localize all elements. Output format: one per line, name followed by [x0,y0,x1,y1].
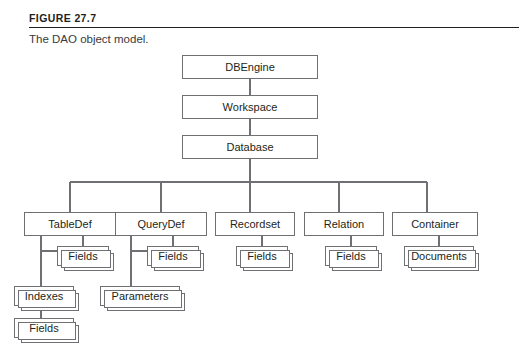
node-label: TableDef [48,218,91,230]
node-querydef[interactable]: QueryDef [115,212,207,236]
node-relation-fields[interactable]: Fields [325,246,377,266]
node-label: Database [226,141,273,153]
node-tabledef-fields[interactable]: Fields [57,246,109,266]
node-label: Container [411,218,459,230]
dao-object-model-diagram: DBEngine Workspace Database TableDef Que… [0,0,519,352]
node-tabledef[interactable]: TableDef [24,212,116,236]
node-container-documents[interactable]: Documents [404,246,474,266]
node-querydef-fields[interactable]: Fields [147,246,199,266]
node-indexes-fields[interactable]: Fields [14,318,74,338]
node-label: Fields [158,250,187,262]
node-label: Documents [411,250,467,262]
node-label: Fields [68,250,97,262]
node-label: Fields [29,322,58,334]
node-dbengine[interactable]: DBEngine [182,55,318,79]
node-label: Fields [336,250,365,262]
node-relation[interactable]: Relation [304,212,384,236]
node-label: Relation [324,218,364,230]
node-workspace[interactable]: Workspace [182,95,318,119]
node-querydef-parameters[interactable]: Parameters [100,286,180,306]
figure-page: FIGURE 27.7 The DAO object model. [0,0,519,352]
node-label: QueryDef [137,218,184,230]
node-container[interactable]: Container [392,212,478,236]
node-recordset[interactable]: Recordset [215,212,295,236]
node-label: DBEngine [225,61,275,73]
node-label: Recordset [230,218,280,230]
node-recordset-fields[interactable]: Fields [236,246,288,266]
node-label: Indexes [25,290,64,302]
node-label: Workspace [223,101,278,113]
node-tabledef-indexes[interactable]: Indexes [14,286,74,306]
node-label: Fields [247,250,276,262]
node-database[interactable]: Database [182,135,318,159]
node-label: Parameters [112,290,169,302]
